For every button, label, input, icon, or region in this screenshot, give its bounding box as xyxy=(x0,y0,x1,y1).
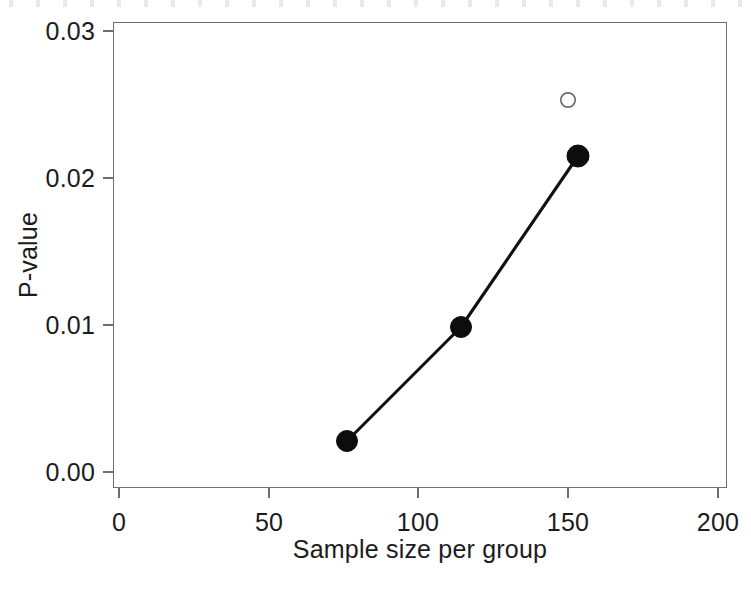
x-tick-label-150: 150 xyxy=(547,508,589,537)
data-point-open xyxy=(561,93,575,107)
y-axis-title: P-value xyxy=(14,212,43,298)
chart-figure: 0.03 0.02 0.01 0.00 0 50 100 150 200 Sam… xyxy=(0,0,751,597)
data-point xyxy=(451,317,472,338)
series-markers-outlier xyxy=(561,93,575,107)
series-line-observed xyxy=(347,156,578,441)
y-tick-label-0.01: 0.01 xyxy=(13,311,95,340)
x-axis-title: Sample size per group xyxy=(293,535,547,564)
y-tick-label-0.03: 0.03 xyxy=(13,17,95,46)
x-tick-label-0: 0 xyxy=(112,508,126,537)
x-tick-label-100: 100 xyxy=(397,508,439,537)
x-tick-label-50: 50 xyxy=(255,508,283,537)
series-markers-observed xyxy=(337,145,590,452)
plot-frame xyxy=(114,23,727,488)
y-tick-label-0.02: 0.02 xyxy=(13,164,95,193)
data-point xyxy=(567,145,589,167)
x-axis xyxy=(119,487,718,498)
x-tick-label-200: 200 xyxy=(697,508,739,537)
y-axis xyxy=(103,31,114,472)
data-point xyxy=(337,431,358,452)
y-tick-label-0.00: 0.00 xyxy=(13,458,95,487)
